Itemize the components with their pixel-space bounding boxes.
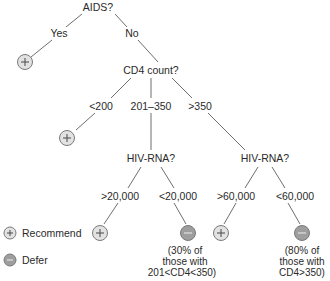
- edge-midlt-defer: [174, 203, 186, 224]
- defer-icon: [181, 226, 196, 241]
- node-hivrna-question-mid: HIV-RNA?: [127, 152, 176, 164]
- branch-label-cd4-high: >350: [188, 100, 212, 112]
- node-hivrna-question-high: HIV-RNA?: [241, 152, 290, 164]
- edge-aids-yes: [66, 14, 82, 27]
- edge-aids-no: [115, 14, 127, 27]
- legend-defer-label: Defer: [22, 254, 48, 266]
- edge-highlt-defer: [288, 203, 300, 224]
- branch-label-high-lt: <60,000: [276, 190, 314, 202]
- branch-label-cd4-mid: 201–350: [131, 100, 172, 112]
- edge-high-gt: [245, 167, 258, 188]
- defer-icon: [295, 226, 310, 241]
- branch-label-mid-lt: <20,000: [159, 190, 197, 202]
- recommend-icon: [214, 226, 229, 241]
- edge-high-hivrna: [208, 113, 245, 150]
- recommend-icon: [60, 131, 75, 146]
- note-mid-defer: (30% of those with 201<CD4<350): [148, 245, 216, 278]
- edge-midgt-recommend: [104, 203, 118, 224]
- legend-recommend-label: Recommend: [22, 227, 82, 239]
- legend-defer-icon: [4, 254, 16, 266]
- edge-mid-lt: [161, 167, 174, 188]
- note-line: (30% of: [168, 245, 203, 256]
- node-aids-question: AIDS?: [83, 1, 114, 13]
- edge-high-lt: [272, 167, 285, 188]
- branch-label-mid-gt: >20,000: [101, 190, 139, 202]
- note-line: 201<CD4<350): [148, 267, 216, 278]
- edge-cd4-high: [172, 78, 192, 98]
- branch-label-yes: Yes: [50, 27, 67, 39]
- note-line: (80% of: [285, 245, 320, 256]
- edge-highgt-recommend: [224, 203, 236, 224]
- note-high-defer: (80% of those with CD4>350): [279, 245, 325, 278]
- legend-recommend-icon: [4, 227, 16, 239]
- branch-label-cd4-low: <200: [89, 100, 113, 112]
- decision-tree: AIDS? Yes No CD4 count? <200 201–350 >35…: [0, 0, 330, 281]
- recommend-icon: [93, 226, 108, 241]
- branch-label-no: No: [125, 27, 139, 39]
- edge-cd4-low: [111, 78, 131, 98]
- recommend-icon: [18, 55, 33, 70]
- note-line: CD4>350): [279, 267, 325, 278]
- note-line: those with: [162, 256, 207, 267]
- edge-low-recommend: [76, 113, 95, 130]
- note-line: those with: [279, 256, 324, 267]
- edge-no-cd4: [138, 40, 158, 62]
- legend: Recommend Defer: [4, 227, 82, 266]
- branch-label-high-gt: >60,000: [217, 190, 255, 202]
- edge-mid-gt: [128, 167, 141, 188]
- edge-yes-recommend: [31, 40, 52, 57]
- node-cd4-question: CD4 count?: [123, 64, 179, 76]
